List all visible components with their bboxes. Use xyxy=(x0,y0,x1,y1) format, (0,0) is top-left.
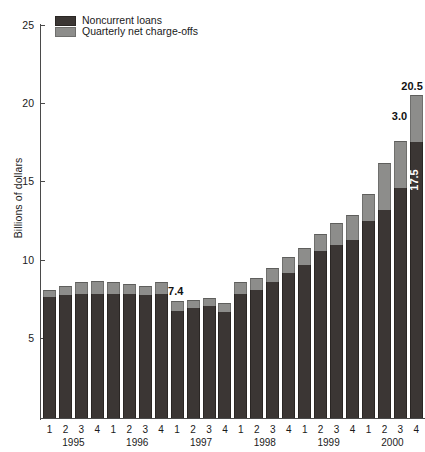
bar-segment-noncurrent-loans xyxy=(314,251,327,418)
bar-segment-noncurrent-loans xyxy=(107,294,120,419)
bar-2000-q1 xyxy=(362,194,375,418)
bar-segment-charge-offs xyxy=(139,286,152,295)
bar-segment-noncurrent-loans xyxy=(330,245,343,418)
plot-area xyxy=(41,24,425,418)
bar-1997-q3 xyxy=(203,298,216,418)
annotation-peak-chargeoffs: 3.0 xyxy=(392,110,407,122)
bar-2000-q4 xyxy=(410,95,423,418)
bar-segment-noncurrent-loans xyxy=(218,312,231,418)
x-axis-quarter-label: 1 xyxy=(43,424,56,435)
x-axis-quarter-label: 1 xyxy=(107,424,120,435)
x-axis-quarter-label: 4 xyxy=(346,424,359,435)
x-axis-quarter-label: 3 xyxy=(394,424,407,435)
bar-1997-q1 xyxy=(171,301,184,418)
bar-segment-charge-offs xyxy=(298,248,311,265)
bar-1996-q4 xyxy=(155,282,168,418)
bar-segment-noncurrent-loans xyxy=(75,294,88,419)
bar-segment-charge-offs xyxy=(75,282,88,293)
bar-segment-charge-offs xyxy=(362,194,375,221)
bar-segment-charge-offs xyxy=(250,278,263,291)
bar-segment-charge-offs xyxy=(107,282,120,293)
x-axis-quarter-label: 4 xyxy=(91,424,104,435)
bar-segment-charge-offs xyxy=(203,298,216,306)
bar-segment-charge-offs xyxy=(234,282,247,293)
y-tick-label-5: 5 xyxy=(0,333,34,343)
bar-segment-charge-offs xyxy=(91,281,104,294)
bar-segment-noncurrent-loans xyxy=(91,294,104,419)
bar-1998-q2 xyxy=(250,278,263,418)
x-axis-quarter-label: 2 xyxy=(59,424,72,435)
bar-1996-q3 xyxy=(139,286,152,418)
bar-1996-q1 xyxy=(107,282,120,418)
bar-1998-q4 xyxy=(282,257,295,418)
bar-segment-charge-offs xyxy=(330,223,343,245)
x-axis-quarter-label: 4 xyxy=(282,424,295,435)
bar-segment-noncurrent-loans xyxy=(187,308,200,418)
x-axis-quarter-label: 4 xyxy=(410,424,423,435)
bar-segment-charge-offs xyxy=(378,163,391,210)
bar-segment-noncurrent-loans xyxy=(282,273,295,418)
x-axis-quarter-label: 3 xyxy=(330,424,343,435)
x-axis-quarter-label: 2 xyxy=(378,424,391,435)
x-axis-quarter-label: 2 xyxy=(123,424,136,435)
y-tick-label-10: 10 xyxy=(0,255,34,265)
bar-segment-noncurrent-loans xyxy=(123,294,136,419)
bar-segment-noncurrent-loans xyxy=(266,282,279,418)
x-axis-quarter-label: 3 xyxy=(203,424,216,435)
bar-segment-charge-offs xyxy=(346,215,359,240)
annotation-peak-total: 20.5 xyxy=(401,80,422,92)
x-axis-year-label: 1997 xyxy=(170,437,232,448)
bar-segment-charge-offs xyxy=(187,300,200,308)
x-axis-quarter-label: 3 xyxy=(75,424,88,435)
x-axis-quarter-label: 4 xyxy=(155,424,168,435)
y-tick-label-20: 20 xyxy=(0,98,34,108)
bar-1999-q4 xyxy=(346,215,359,418)
bar-segment-charge-offs xyxy=(266,268,279,282)
x-axis-quarter-label: 1 xyxy=(171,424,184,435)
x-axis-year-label: 1996 xyxy=(106,437,168,448)
bar-2000-q3 xyxy=(394,141,407,418)
bar-1999-q3 xyxy=(330,223,343,418)
x-axis-year-label: 1999 xyxy=(298,437,360,448)
x-axis-quarter-label: 1 xyxy=(362,424,375,435)
bar-1998-q3 xyxy=(266,268,279,418)
bar-segment-charge-offs xyxy=(171,301,184,310)
bar-segment-charge-offs xyxy=(155,282,168,293)
annotation-peak-noncurrent: 17.5 xyxy=(408,169,420,190)
x-axis-quarter-label: 2 xyxy=(314,424,327,435)
bar-1997-q4 xyxy=(218,303,231,418)
bar-segment-noncurrent-loans xyxy=(234,294,247,419)
bar-1995-q2 xyxy=(59,286,72,418)
bar-segment-charge-offs xyxy=(394,141,407,188)
bar-segment-noncurrent-loans xyxy=(139,295,152,418)
bar-segment-charge-offs xyxy=(218,303,231,312)
stacked-bar-chart: Billions of dollars 25 20 15 10 5 Noncur… xyxy=(0,0,425,452)
x-axis-quarter-label: 2 xyxy=(187,424,200,435)
bar-segment-noncurrent-loans xyxy=(394,188,407,418)
bar-1998-q1 xyxy=(234,282,247,418)
bar-segment-noncurrent-loans xyxy=(203,306,216,418)
bar-segment-noncurrent-loans xyxy=(59,295,72,418)
x-axis-year-label: 1995 xyxy=(42,437,104,448)
bar-segment-noncurrent-loans xyxy=(171,311,184,418)
bar-segment-charge-offs xyxy=(282,257,295,273)
bar-segment-noncurrent-loans xyxy=(346,240,359,418)
x-axis-quarter-label: 1 xyxy=(298,424,311,435)
x-axis-quarter-label: 3 xyxy=(266,424,279,435)
y-tick-label-15: 15 xyxy=(0,176,34,186)
bar-segment-noncurrent-loans xyxy=(250,290,263,418)
bar-segment-noncurrent-loans xyxy=(298,265,311,418)
bar-1999-q1 xyxy=(298,248,311,418)
bar-segment-charge-offs xyxy=(410,95,423,142)
bar-segment-noncurrent-loans xyxy=(378,210,391,418)
x-axis-quarter-label: 3 xyxy=(139,424,152,435)
bar-1996-q2 xyxy=(123,284,136,418)
annotation-low-point: 7.4 xyxy=(168,285,183,297)
x-axis-quarter-label: 4 xyxy=(218,424,231,435)
bar-1995-q1 xyxy=(43,290,56,418)
bar-1995-q4 xyxy=(91,281,104,418)
bar-segment-noncurrent-loans xyxy=(362,221,375,418)
bar-segment-charge-offs xyxy=(123,284,136,293)
bar-segment-noncurrent-loans xyxy=(155,294,168,419)
x-axis-quarter-label: 1 xyxy=(234,424,247,435)
